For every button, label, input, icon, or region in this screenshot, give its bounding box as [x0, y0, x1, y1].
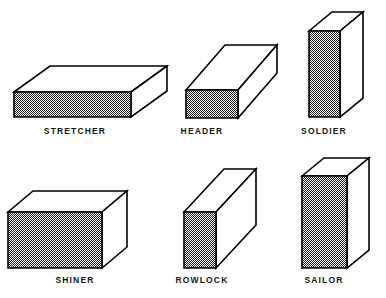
- brick-shape-header: [140, 0, 264, 130]
- brick-cell-sailor: SAILOR: [262, 149, 386, 298]
- brick-cell-header: HEADER: [140, 0, 264, 149]
- brick-label-shiner: SHINER: [0, 275, 150, 285]
- brick-cell-soldier: SOLDIER: [262, 0, 386, 149]
- brick-face-front: [186, 90, 238, 118]
- brick-shape-soldier: [262, 0, 386, 130]
- brick-label-header: HEADER: [140, 126, 264, 136]
- brick-face-side: [340, 12, 363, 117]
- brick-face-front: [309, 31, 340, 117]
- brick-shape-stretcher: [0, 0, 150, 130]
- brick-face-side: [347, 158, 369, 268]
- brick-face-front: [184, 212, 216, 268]
- brick-label-rowlock: ROWLOCK: [140, 275, 264, 285]
- brick-shape-shiner: [0, 149, 150, 279]
- brick-face-front: [302, 176, 347, 268]
- brick-label-sailor: SAILOR: [262, 275, 386, 285]
- brick-positions-diagram: STRETCHER HEADER SOLDIER SHINER: [0, 0, 386, 298]
- brick-label-soldier: SOLDIER: [262, 126, 386, 136]
- brick-face-front: [14, 92, 131, 117]
- brick-cell-stretcher: STRETCHER: [0, 0, 150, 149]
- brick-shape-rowlock: [140, 149, 264, 279]
- brick-face-front: [8, 212, 102, 268]
- brick-cell-shiner: SHINER: [0, 149, 150, 298]
- brick-shape-sailor: [262, 149, 386, 279]
- brick-label-stretcher: STRETCHER: [0, 126, 150, 136]
- brick-cell-rowlock: ROWLOCK: [140, 149, 264, 298]
